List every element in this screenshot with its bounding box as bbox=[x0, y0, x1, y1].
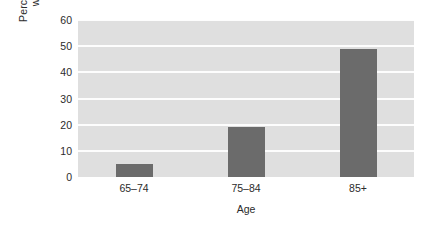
x-axis-tick-label: 85+ bbox=[349, 182, 367, 194]
x-axis-tick-labels: 65–7475–8485+ bbox=[78, 182, 414, 198]
x-axis-title: Age bbox=[78, 203, 414, 215]
bars-layer bbox=[78, 20, 414, 177]
bar bbox=[340, 49, 377, 177]
y-axis-tick-label: 50 bbox=[60, 40, 72, 52]
y-axis-tick-label: 40 bbox=[60, 66, 72, 78]
y-axis-tick-label: 0 bbox=[66, 171, 72, 183]
y-axis-title: Percentage of persons with Alzheimer's bbox=[14, 0, 44, 48]
y-axis-tick-label: 20 bbox=[60, 119, 72, 131]
bar bbox=[228, 127, 265, 177]
x-axis-tick-label: 65–74 bbox=[119, 182, 148, 194]
y-axis-title-line-2: with Alzheimer's bbox=[29, 0, 41, 6]
bar-chart-figure: Percentage of persons with Alzheimer's 0… bbox=[0, 0, 434, 228]
y-axis-tick-label: 30 bbox=[60, 93, 72, 105]
y-axis-tick-label: 10 bbox=[60, 145, 72, 157]
plot-area bbox=[78, 20, 414, 177]
y-axis-title-line-1: Percentage of persons bbox=[17, 0, 29, 22]
bar bbox=[116, 164, 153, 177]
x-axis-tick-label: 75–84 bbox=[231, 182, 260, 194]
y-axis-tick-labels: 0102030405060 bbox=[42, 20, 72, 177]
y-axis-tick-label: 60 bbox=[60, 14, 72, 26]
